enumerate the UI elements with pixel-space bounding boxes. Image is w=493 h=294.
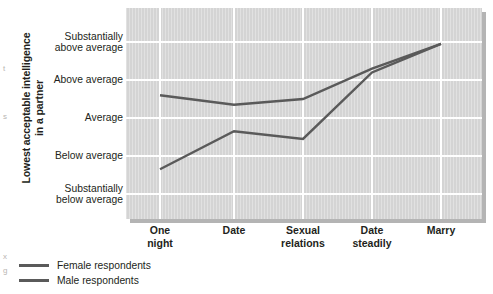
x-tick-3-line-2: steadily [324, 237, 420, 250]
chart-plot [126, 8, 482, 219]
y-tick-1-line-1: Above average [26, 74, 123, 86]
y-axis-tick-below-average: Below average [26, 150, 123, 162]
legend-label-female: Female respondents [57, 260, 151, 272]
y-tick-0-line-1: Substantially [26, 31, 123, 43]
legend-swatch-female [19, 264, 49, 267]
page-edge-fragments: t s x g [0, 0, 16, 294]
edge-fragment-1: t [3, 64, 5, 74]
edge-fragment-3: x [3, 252, 7, 262]
y-tick-4-line-2: below average [26, 194, 123, 206]
series-line-male-respondents [160, 44, 441, 169]
edge-fragment-4: g [3, 266, 7, 276]
series-line-female-respondents [160, 44, 441, 105]
y-tick-2-line-1: Average [26, 112, 123, 124]
x-axis-tick-marry: Marry [393, 224, 489, 237]
edge-fragment-2: s [3, 112, 7, 122]
y-axis-tick-substantially-below-average: Substantially below average [26, 183, 123, 206]
y-axis-tick-substantially-above-average: Substantially above average [26, 31, 123, 54]
legend-item-female-respondents: Female respondents [19, 258, 151, 273]
legend-item-male-respondents: Male respondents [19, 273, 151, 288]
y-axis-tick-labels: Substantially above average Above averag… [26, 8, 123, 220]
chart-legend: Female respondents Male respondents [19, 258, 151, 288]
legend-swatch-male [19, 279, 49, 282]
legend-label-male: Male respondents [57, 275, 139, 287]
y-tick-0-line-2: above average [26, 42, 123, 54]
x-axis-tick-labels: One night Date Sexual relations Date ste… [126, 224, 486, 258]
chart-lines-svg [126, 8, 482, 219]
x-tick-0-line-2: night [112, 237, 208, 250]
y-tick-4-line-1: Substantially [26, 183, 123, 195]
y-tick-3-line-1: Below average [26, 150, 123, 162]
x-tick-4-line-1: Marry [393, 224, 489, 237]
y-axis-tick-above-average: Above average [26, 74, 123, 86]
y-axis-tick-average: Average [26, 112, 123, 124]
